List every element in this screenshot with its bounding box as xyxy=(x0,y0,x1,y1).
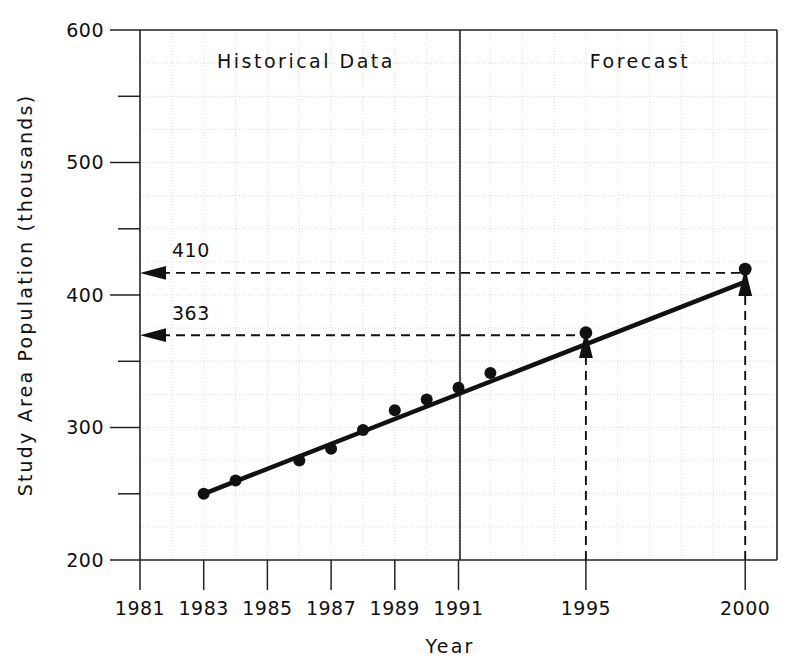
y-tick-label: 600 xyxy=(66,19,104,41)
y-axis-ticks xyxy=(110,30,140,560)
y-axis-title: Study Area Population (thousands) xyxy=(14,94,36,497)
data-point xyxy=(421,394,433,406)
x-tick-label: 1987 xyxy=(306,597,356,619)
data-point xyxy=(293,455,305,467)
data-point xyxy=(230,475,242,487)
data-point xyxy=(357,424,369,436)
y-tick-labels: 600 500 400 300 200 xyxy=(66,19,104,571)
data-point xyxy=(389,404,401,416)
x-tick-label: 1985 xyxy=(242,597,292,619)
data-point xyxy=(198,488,210,500)
y-tick-label: 400 xyxy=(66,284,104,306)
x-tick-label: 1989 xyxy=(370,597,420,619)
x-tick-label: 1981 xyxy=(115,597,165,619)
value-363-label: 363 xyxy=(172,302,210,324)
x-tick-labels: 1981 1983 1985 1987 1989 1991 1995 2000 xyxy=(115,597,771,619)
forecast-point-2000 xyxy=(739,263,752,276)
forecast-point-1995 xyxy=(580,326,593,339)
x-tick-label: 2000 xyxy=(720,597,770,619)
forecast-markers xyxy=(580,263,752,339)
x-tick-label: 1995 xyxy=(561,597,611,619)
y-tick-label: 500 xyxy=(66,151,104,173)
data-point xyxy=(484,367,496,379)
x-tick-label: 1983 xyxy=(179,597,229,619)
y-tick-label: 300 xyxy=(66,416,104,438)
left-arrow-icon xyxy=(140,266,166,280)
historical-data-label: Historical Data xyxy=(217,50,395,72)
y-tick-label: 200 xyxy=(66,549,104,571)
left-arrow-icon xyxy=(140,328,166,342)
x-axis-title: Year xyxy=(424,635,474,657)
data-point xyxy=(453,382,465,394)
value-410-label: 410 xyxy=(172,239,210,261)
reference-line-410: 410 xyxy=(140,239,745,280)
data-point xyxy=(325,443,337,455)
reference-line-363: 363 xyxy=(140,302,586,342)
x-tick-label: 1991 xyxy=(433,597,483,619)
trend-line xyxy=(204,282,746,494)
forecast-label: Forecast xyxy=(590,50,690,72)
chart-canvas: 600 500 400 300 200 1981 1983 1985 1987 … xyxy=(0,0,794,667)
population-forecast-chart: 600 500 400 300 200 1981 1983 1985 1987 … xyxy=(0,0,794,667)
x-axis-ticks xyxy=(140,560,745,590)
